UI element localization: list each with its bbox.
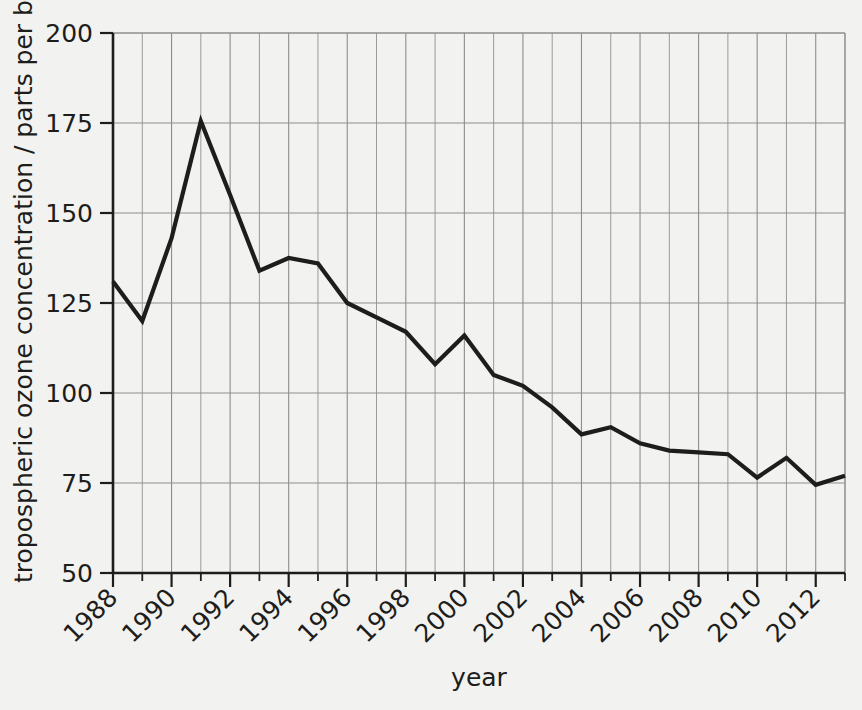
y-tick-label: 100	[45, 379, 93, 408]
y-tick-label: 200	[45, 19, 93, 48]
y-tick-label: 50	[61, 559, 93, 588]
x-axis-title: year	[451, 663, 507, 692]
y-tick-label: 150	[45, 199, 93, 228]
y-tick-label: 175	[45, 109, 93, 138]
y-tick-label: 75	[61, 469, 93, 498]
y-axis-title: tropospheric ozone concentration / parts…	[9, 0, 38, 583]
y-tick-label: 125	[45, 289, 93, 318]
ozone-line-chart: 5075100125150175200 19881990199219941996…	[0, 0, 862, 710]
chart-canvas: 5075100125150175200 19881990199219941996…	[0, 0, 862, 710]
